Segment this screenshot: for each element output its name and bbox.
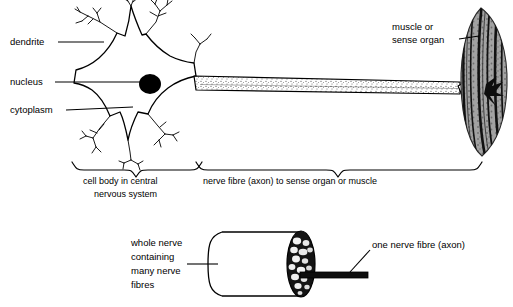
neuron-diagram: dendrite nucleus cytoplasm muscle or sen… xyxy=(0,0,513,307)
brace-nerve-fibre xyxy=(196,162,482,177)
label-nucleus: nucleus xyxy=(10,76,43,87)
single-fibre-rod xyxy=(300,272,368,278)
neuron-figure-canvas: dendrite nucleus cytoplasm muscle or sen… xyxy=(0,0,513,307)
label-whole-nerve-line1: whole nerve xyxy=(130,237,182,248)
brace-cell-body xyxy=(72,162,202,177)
cell-body-soma xyxy=(74,6,196,140)
axon-tube xyxy=(194,76,460,94)
cytoplasm-leader-line xyxy=(66,107,133,110)
label-whole-nerve-line3: many nerve xyxy=(131,265,181,276)
one-fibre-leader-line xyxy=(350,250,370,272)
label-muscle-line2: sense organ xyxy=(392,34,444,45)
muscle-sense-organ xyxy=(461,2,507,160)
label-whole-nerve-line4: fibres xyxy=(131,279,154,290)
label-brace-cell-body-line1: cell body in central xyxy=(83,176,158,186)
label-dendrite: dendrite xyxy=(10,36,44,47)
label-muscle-line1: muscle or xyxy=(392,21,433,32)
label-one-nerve-fibre: one nerve fibre (axon) xyxy=(372,239,465,250)
label-whole-nerve-line2: containing xyxy=(131,251,174,262)
whole-nerve-cylinder xyxy=(208,231,315,297)
label-brace-nerve-fibre: nerve fibre (axon) to sense organ or mus… xyxy=(203,176,377,186)
nucleus-blob xyxy=(139,74,161,94)
label-cytoplasm: cytoplasm xyxy=(10,104,53,115)
label-brace-cell-body-line2: nervous system xyxy=(94,189,157,199)
